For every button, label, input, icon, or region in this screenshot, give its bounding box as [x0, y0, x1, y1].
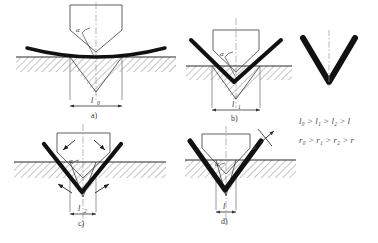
- length-relation: l₀ > l₁ > l₂ > l: [299, 116, 351, 126]
- panel-label-c: c): [78, 219, 85, 228]
- panel-label-d: d): [221, 217, 228, 226]
- panel-label-a: a): [91, 111, 98, 120]
- angle-label-a: α: [76, 26, 80, 34]
- panel-label-b: b): [231, 114, 238, 123]
- dimension-sub-b: 1: [238, 104, 241, 110]
- dimension-sub-c: 2: [84, 208, 87, 214]
- dimension-sub-a: 0: [97, 100, 100, 106]
- figure-canvas: α l 0 a) α l 1: [0, 0, 378, 243]
- v-bending-diagram: α l 0 a) α l 1: [0, 0, 378, 243]
- angle-label-d: α: [215, 160, 219, 168]
- angle-label-c: α: [69, 157, 73, 165]
- radius-relation: r₀ > r₁ > r₂ > r: [299, 135, 355, 145]
- angle-label-b: α: [220, 50, 224, 58]
